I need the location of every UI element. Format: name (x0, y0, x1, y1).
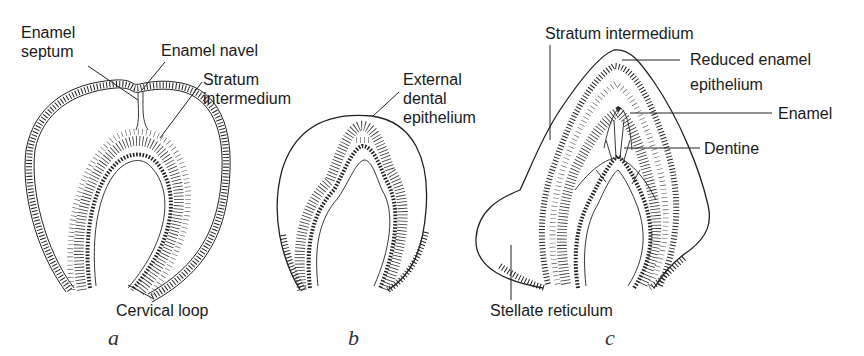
label-ede-line3: epithelium (403, 108, 476, 127)
label-stratum-intermedium-a: Stratum intermedium (203, 70, 291, 108)
label-enamel-navel: Enamel navel (161, 41, 258, 60)
label-stratum-a-line1: Stratum (203, 70, 291, 89)
panel-letter-c: c (605, 325, 615, 351)
label-ede-line2: dental (403, 89, 476, 108)
panel-letter-b: b (348, 325, 359, 351)
panel-b-drawing (277, 115, 426, 290)
label-cervical-loop: Cervical loop (116, 301, 208, 320)
label-stratum-a-line2: intermedium (203, 89, 291, 108)
label-external-dental-epithelium: External dental epithelium (403, 70, 476, 127)
label-enamel-septum-line1: Enamel (21, 23, 75, 42)
leader-external-dental-epithelium (373, 92, 399, 116)
panel-letter-a: a (108, 325, 119, 351)
label-enamel: Enamel (778, 104, 832, 123)
label-enamel-septum: Enamel septum (21, 23, 75, 61)
label-ree-line2: epithelium (690, 75, 811, 94)
label-ede-line1: External (403, 70, 476, 89)
label-reduced-enamel-epithelium: Reduced enamel epithelium (690, 50, 811, 94)
label-stellate-reticulum: Stellate reticulum (490, 301, 613, 320)
label-dentine: Dentine (704, 139, 759, 158)
panel-a-drawing (25, 80, 230, 302)
leader-stratum-a (160, 82, 202, 138)
label-stratum-intermedium-c: Stratum intermedium (545, 24, 694, 43)
label-ree-line1: Reduced enamel (690, 50, 811, 69)
label-enamel-septum-line2: septum (21, 42, 75, 61)
